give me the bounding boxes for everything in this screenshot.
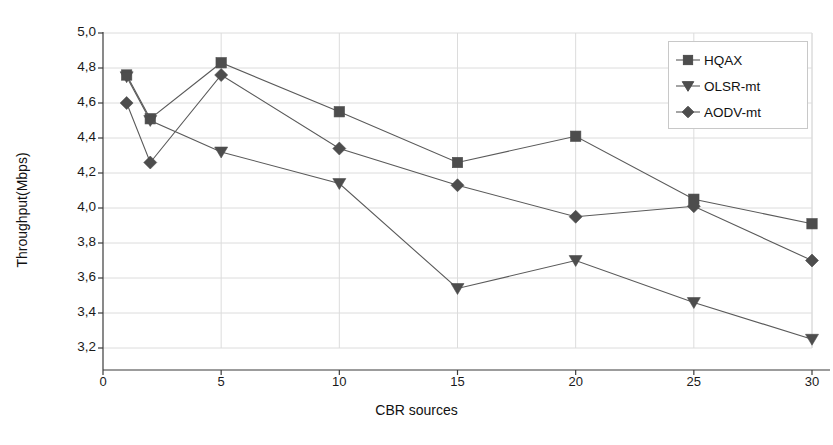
data-point-marker	[451, 284, 464, 295]
data-point-marker	[452, 157, 462, 167]
data-point-marker	[144, 156, 157, 169]
data-point-marker	[120, 97, 133, 110]
x-tick-label: 0	[99, 374, 106, 389]
x-axis-title-label: CBR sources	[375, 402, 457, 418]
legend-marker-diamond-icon	[675, 104, 701, 120]
legend-marker-square-icon	[675, 52, 701, 68]
legend-marker-triangle-down-icon	[675, 78, 701, 94]
data-point-marker	[333, 142, 346, 155]
x-tick-label: 20	[568, 374, 582, 389]
y-axis-ticks	[98, 33, 103, 348]
legend-item-olsr-mt[interactable]: OLSR-mt	[675, 74, 760, 98]
data-point-marker	[807, 219, 817, 229]
legend-item-aodv-mt[interactable]: AODV-mt	[675, 100, 761, 124]
data-point-marker	[334, 107, 344, 117]
data-point-marker	[806, 334, 819, 345]
data-point-marker	[216, 58, 226, 68]
legend-item-hqax[interactable]: HQAX	[675, 48, 742, 72]
data-point-marker	[569, 210, 582, 223]
data-point-marker	[806, 254, 819, 267]
x-tick-label: 15	[450, 374, 464, 389]
legend-item-label: OLSR-mt	[704, 79, 760, 94]
data-point-marker	[215, 147, 228, 158]
legend: HQAXOLSR-mtAODV-mt	[668, 41, 808, 129]
x-tick-label: 10	[332, 374, 346, 389]
data-point-marker	[451, 179, 464, 192]
data-point-marker	[687, 298, 700, 309]
x-tick-label: 25	[687, 374, 701, 389]
x-axis-title: CBR sources	[0, 402, 833, 418]
x-tick-label: 30	[805, 374, 819, 389]
legend-item-label: HQAX	[704, 53, 742, 68]
data-point-marker	[215, 69, 228, 82]
data-point-marker	[570, 131, 580, 141]
legend-item-label: AODV-mt	[704, 105, 761, 120]
chart-container: Throughput(Mbps) 3,23,43,63,84,04,24,44,…	[0, 0, 833, 445]
x-tick-label: 5	[218, 374, 225, 389]
